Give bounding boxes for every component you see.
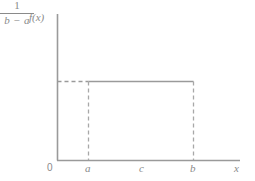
uniform-distribution-figure: f(x) 1 b − a 0 a c b x [0, 0, 255, 181]
y-axis-label: f(x) [29, 12, 44, 23]
x-tick-label-c: c [139, 163, 144, 174]
x-tick-label-origin: 0 [47, 163, 53, 173]
x-tick-label-b: b [190, 163, 196, 174]
x-tick-label-a: a [85, 163, 91, 174]
x-axis-label: x [234, 163, 239, 174]
plot-canvas [0, 0, 255, 181]
